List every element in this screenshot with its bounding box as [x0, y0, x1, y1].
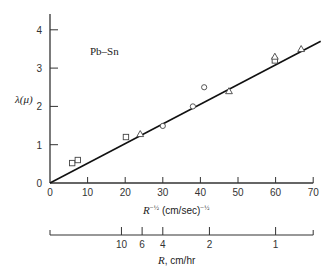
- x-axis-label-exp: −½: [150, 204, 159, 212]
- square-marker: [69, 160, 74, 165]
- square-marker: [123, 134, 128, 139]
- secondary-axis: 106421: [50, 227, 313, 250]
- secondary-tick-label: 10: [116, 239, 128, 250]
- x-tick-label: 50: [232, 187, 244, 198]
- x-axis-label-units: (cm/sec): [162, 205, 200, 216]
- y-tick-label: 0: [36, 178, 42, 189]
- alloy-annotation: Pb–Sn: [90, 45, 119, 57]
- triangle-marker: [298, 46, 305, 52]
- x-tick-label: 20: [120, 187, 132, 198]
- x-tick-label: 0: [47, 187, 53, 198]
- secondary-tick-label: 2: [207, 239, 213, 250]
- data-points: [69, 46, 304, 166]
- x-tick-label: 60: [270, 187, 282, 198]
- y-tick-label: 3: [36, 63, 42, 74]
- secondary-tick-label: 4: [160, 239, 166, 250]
- secondary-tick-label: 6: [139, 239, 145, 250]
- y-tick-label: 1: [36, 140, 42, 151]
- x-tick-label: 10: [82, 187, 94, 198]
- circle-marker: [202, 85, 207, 90]
- x-tick-label: 40: [195, 187, 207, 198]
- secondary-axis-label: R, cm/hr: [157, 254, 196, 266]
- x-axis-label-units-exp: −½: [200, 204, 209, 212]
- x-tick-label: 70: [308, 187, 320, 198]
- y-axis-label: λ(μ): [14, 93, 33, 106]
- x-axis-label: R−½(cm/sec)−½: [142, 204, 209, 216]
- y-tick-label: 2: [36, 101, 42, 112]
- regression-line: [50, 41, 321, 183]
- circle-marker: [190, 104, 195, 109]
- x-tick-label: 30: [157, 187, 169, 198]
- secondary-axis-label-units: , cm/hr: [165, 255, 196, 266]
- circle-marker: [160, 123, 165, 128]
- fit-line: [50, 41, 321, 183]
- y-tick-label: 4: [36, 25, 42, 36]
- triangle-marker: [271, 53, 278, 59]
- square-marker: [75, 157, 80, 162]
- secondary-tick-label: 1: [273, 239, 279, 250]
- chart: 01020304050607001234 Pb–Sn λ(μ) R−½(cm/s…: [0, 0, 336, 272]
- axes: 01020304050607001234: [36, 14, 319, 198]
- triangle-marker: [137, 131, 144, 137]
